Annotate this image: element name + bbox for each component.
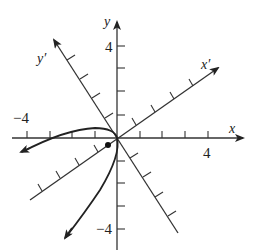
focus-point — [105, 142, 111, 148]
y-axis-label: y — [102, 14, 111, 29]
x-tick-label-min: −4 — [13, 110, 29, 126]
y-prime-axis-label: y′ — [35, 51, 47, 66]
x-prime-axis — [30, 68, 218, 200]
rotated-axes-figure: x y x′ y′ −4 4 4 −4 — [0, 0, 253, 251]
x-prime-axis-label: x′ — [200, 57, 211, 72]
diagram-svg: x y x′ y′ −4 4 4 −4 — [0, 0, 253, 251]
x-axis-label: x — [228, 121, 236, 136]
x-tick-label-max: 4 — [203, 145, 211, 161]
y-tick-label-min: −4 — [96, 221, 112, 237]
y-tick-label-max: 4 — [105, 39, 113, 55]
